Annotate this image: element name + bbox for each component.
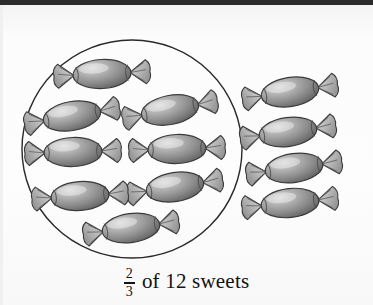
worksheet-illustration: 2 3 of 12 sweets <box>0 0 373 305</box>
caption-text: of 12 sweets <box>142 269 249 294</box>
fraction-denominator: 3 <box>124 284 135 299</box>
fraction-numerator: 2 <box>124 267 135 282</box>
sweet-inside-1 <box>51 53 153 94</box>
sweet-inside-4 <box>22 132 123 171</box>
fraction-two-thirds: 2 3 <box>124 267 135 299</box>
caption: 2 3 of 12 sweets <box>0 258 373 298</box>
